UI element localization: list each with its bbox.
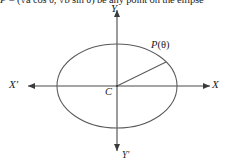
x-negative-arrowhead (28, 83, 35, 89)
center-label: C (105, 86, 112, 97)
radius-line-c-to-p (117, 62, 166, 86)
axis-label-x-positive: X (212, 78, 219, 90)
point-label-p-theta: P(θ) (151, 39, 169, 50)
point-label-close-paren: ) (166, 39, 170, 50)
diagram-canvas (0, 0, 225, 167)
y-negative-arrowhead (114, 144, 120, 151)
horizontal-axis (28, 83, 210, 89)
axis-label-y-positive: Y (111, 2, 117, 14)
axis-label-y-negative: Y' (122, 150, 129, 160)
axis-label-x-negative: X' (9, 78, 18, 90)
ellipse-figure: P = (√a cos θ, √b sin θ) be any point on… (0, 0, 225, 167)
center-point-marker (116, 85, 118, 87)
vertical-axis (114, 10, 120, 151)
x-positive-arrowhead (203, 83, 210, 89)
